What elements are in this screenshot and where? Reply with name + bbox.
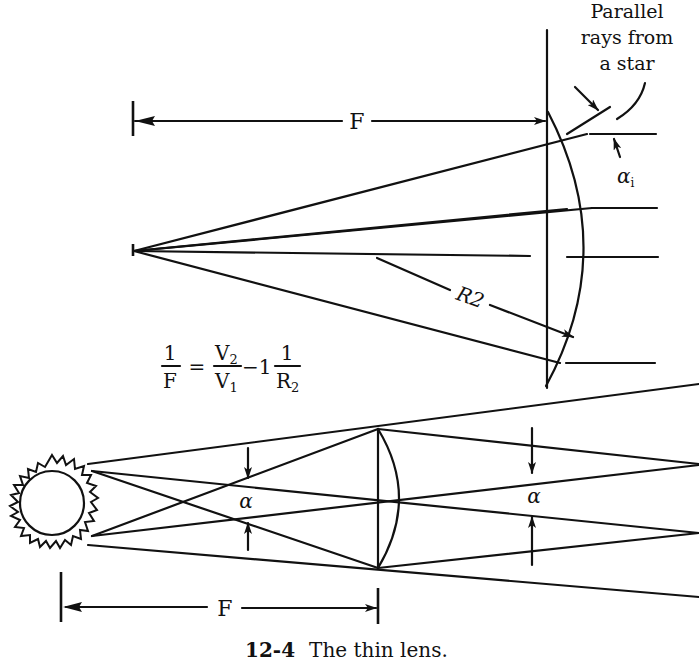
eq-lhs-num: 1	[164, 341, 177, 365]
lens-equation: 1 F = V2 V1 −1 1 R2	[162, 341, 300, 395]
star-ray	[567, 107, 610, 134]
focal-label-bottom: F	[217, 596, 232, 621]
eq-v-num: V2	[214, 341, 238, 367]
eq-lhs-den: F	[163, 369, 177, 393]
figure-caption: 12-4The thin lens.	[245, 638, 448, 662]
sun-icon	[10, 455, 98, 548]
angle-label-right: α	[527, 484, 541, 508]
svg-text:12-4The thin lens.: 12-4The thin lens.	[245, 638, 448, 662]
thin-lens-curve	[378, 429, 399, 568]
parallel-rays-label-3: a star	[599, 52, 655, 74]
incidence-angle-label: αi	[617, 164, 635, 190]
thin-lens-figure: Parallel rays from a star F αi R2 1 F = …	[0, 0, 699, 665]
eq-v-den: V1	[214, 369, 238, 395]
caption-number: 12-4	[245, 638, 295, 662]
top-diagram: Parallel rays from a star F αi R2	[133, 0, 673, 388]
focal-label-top: F	[349, 109, 364, 134]
eq-r-num: 1	[281, 341, 294, 365]
focal-length-dimension-bottom: F	[61, 572, 378, 624]
incidence-angle-arc	[617, 83, 645, 119]
bottom-diagram: α α F	[10, 384, 699, 624]
eq-equals: =	[189, 355, 206, 379]
angle-label-left: α	[239, 489, 253, 513]
parallel-rays-label-2: rays from	[581, 26, 674, 48]
caption-text: The thin lens.	[309, 638, 448, 662]
parallel-rays-label: Parallel	[590, 0, 663, 22]
lens-curved-surface	[546, 112, 584, 386]
eq-r-den: R2	[276, 369, 299, 395]
radius-label: R2	[452, 281, 487, 313]
focal-length-dimension-top	[133, 101, 545, 136]
eq-minus-one: −1	[242, 355, 271, 379]
